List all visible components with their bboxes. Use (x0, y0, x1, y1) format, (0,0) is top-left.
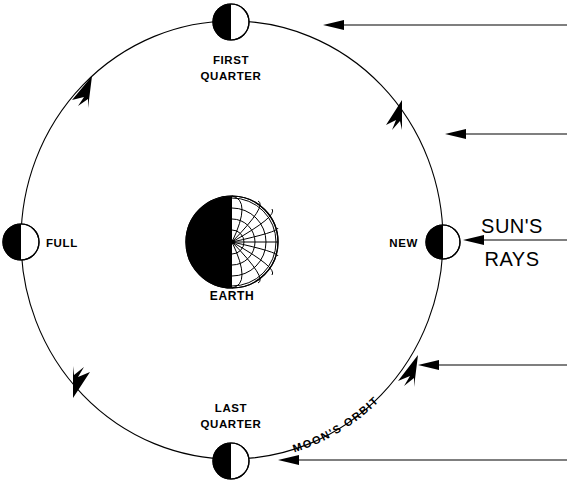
sun-ray-2-arrowhead (445, 129, 466, 139)
sun-ray-5-arrowhead (278, 455, 299, 465)
sun-ray-5 (278, 455, 567, 465)
moon-new-label: NEW (389, 237, 418, 249)
earth-label: EARTH (210, 289, 254, 303)
moon-last-quarter-shadow (213, 443, 231, 479)
moon-last-quarter-label-line2: QUARTER (200, 418, 261, 430)
orbit-direction-arrow-upper-right (386, 100, 402, 130)
sun-ray-1-arrowhead (323, 20, 344, 30)
moon-phases-diagram: MOON'S ORBIT (0, 0, 567, 485)
earth-group: EARTH (186, 196, 278, 303)
moon-first-quarter-shadow (213, 4, 231, 40)
moon-new-shadow (426, 225, 443, 259)
moon-last-quarter-group: LAST QUARTER (200, 402, 261, 479)
moon-first-quarter-label-line2: QUARTER (200, 70, 261, 82)
earth-shadow-half (186, 196, 232, 288)
sun-ray-4 (418, 360, 567, 370)
moon-new-group: NEW (389, 225, 460, 259)
moon-full-label: FULL (46, 237, 78, 249)
earth-center-dot (230, 240, 235, 245)
moon-full-group: FULL (3, 224, 78, 260)
moon-full-shadow (3, 224, 21, 260)
moon-first-quarter-label-line1: FIRST (213, 54, 249, 66)
sun-ray-2 (445, 129, 567, 139)
sun-rays-label-line1: SUN'S (481, 215, 543, 237)
orbit-direction-arrow-upper-left (72, 76, 92, 108)
sun-rays-label-line2: RAYS (485, 248, 540, 270)
sun-ray-1 (323, 20, 567, 30)
diagram-canvas: MOON'S ORBIT (0, 0, 567, 485)
moon-last-quarter-label-line1: LAST (215, 402, 247, 414)
moon-orbit-label: MOON'S ORBIT (291, 394, 381, 455)
sun-rays-group: SUN'S RAYS (278, 20, 567, 465)
sun-ray-4-arrowhead (418, 360, 439, 370)
moon-first-quarter-group: FIRST QUARTER (200, 4, 261, 82)
